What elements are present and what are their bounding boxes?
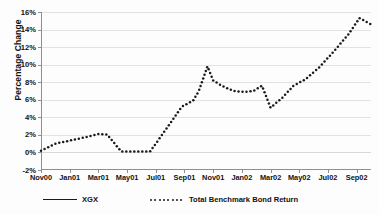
legend-item-xgx: XGX — [43, 195, 98, 204]
x-tick-label: Jul01 — [146, 173, 165, 182]
x-tick-label: Mar01 — [88, 173, 109, 182]
x-tick-mark — [41, 170, 42, 173]
x-tick-mark — [357, 170, 358, 173]
x-tick-mark — [328, 170, 329, 173]
legend-item-total-benchmark-bond-return: Total Benchmark Bond Return — [150, 195, 298, 204]
x-tick-label: Mar02 — [260, 173, 281, 182]
chart-legend: XGX Total Benchmark Bond Return — [0, 192, 379, 212]
x-axis-ticks: Nov00Jan01Mar01May01Jul01Sep01Nov01Jan02… — [0, 0, 379, 214]
legend-label-xgx: XGX — [82, 195, 98, 204]
x-tick-label: Sep01 — [174, 173, 196, 182]
x-tick-mark — [156, 170, 157, 173]
x-tick-mark — [127, 170, 128, 173]
legend-label-total-benchmark-bond-return: Total Benchmark Bond Return — [189, 195, 298, 204]
solid-line-swatch-icon — [43, 199, 77, 200]
x-tick-label: Nov00 — [30, 173, 52, 182]
x-tick-mark — [98, 170, 99, 173]
chart-container: Percentage Change 16%14%12%10%8%6%4%2%0%… — [0, 0, 379, 214]
x-tick-label: May02 — [288, 173, 311, 182]
x-tick-label: Nov01 — [202, 173, 224, 182]
dotted-line-swatch-icon — [150, 196, 184, 203]
x-tick-label: May01 — [116, 173, 139, 182]
x-tick-label: Jan02 — [231, 173, 252, 182]
x-tick-mark — [299, 170, 300, 173]
x-tick-mark — [70, 170, 71, 173]
x-tick-label: Jan01 — [59, 173, 80, 182]
x-tick-mark — [242, 170, 243, 173]
x-tick-mark — [271, 170, 272, 173]
x-tick-label: Jul02 — [319, 173, 338, 182]
x-tick-label: Sep02 — [346, 173, 368, 182]
x-tick-mark — [213, 170, 214, 173]
x-tick-mark — [184, 170, 185, 173]
